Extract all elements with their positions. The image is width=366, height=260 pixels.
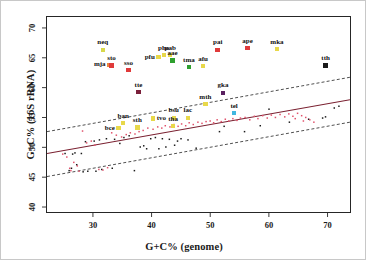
regression-line — [47, 100, 350, 154]
organism-marker-pho — [162, 53, 166, 57]
organism-marker-pfu — [156, 55, 160, 59]
organism-label-bsu: bsu — [168, 107, 179, 114]
organism-label-ban: ban — [118, 113, 129, 120]
organism-marker-bce — [116, 126, 120, 130]
organism-marker-neq — [101, 48, 105, 52]
organism-label-ape: ape — [242, 38, 253, 45]
organism-marker-pai — [215, 48, 219, 52]
organism-label-pfu: pfu — [145, 54, 155, 61]
organism-marker-tma — [187, 65, 191, 69]
organism-marker-tte — [136, 90, 140, 94]
organism-marker-sto — [109, 63, 113, 67]
y-tick-label: 45 — [27, 169, 37, 185]
organism-marker-lac — [186, 116, 190, 120]
y-tick-label: 65 — [27, 50, 37, 66]
organism-label-tel: tel — [230, 103, 237, 110]
organism-label-afu: afu — [198, 56, 208, 63]
organism-label-gka: gka — [218, 82, 229, 89]
organism-label-lac: lac — [183, 107, 192, 114]
organism-marker-gka — [221, 91, 225, 95]
y-tick-label: 40 — [27, 199, 37, 215]
organism-label-aae: aae — [167, 50, 177, 57]
x-axis-label: G+C% (genome) — [1, 241, 366, 252]
organism-label-tha: tha — [168, 116, 178, 123]
plot-canvas — [47, 17, 350, 212]
organism-marker-afu — [201, 64, 205, 68]
plot-area: neqmjastossottepfuphopabaaetmaafupaiapem… — [46, 16, 351, 213]
organism-label-tth: tth — [321, 55, 330, 62]
organism-label-pai: pai — [213, 39, 222, 46]
organism-marker-ape — [245, 46, 249, 50]
organism-label-bce: bce — [105, 125, 115, 132]
organism-marker-ban — [121, 121, 125, 125]
organism-label-sto: sto — [107, 55, 116, 62]
x-tick-label: 60 — [259, 220, 279, 230]
organism-label-neq: neq — [97, 39, 108, 46]
organism-marker-tha — [171, 124, 175, 128]
organism-label-mth: mth — [199, 94, 211, 101]
organism-label-tte: tte — [135, 82, 143, 89]
y-tick-label: 60 — [27, 80, 37, 96]
organism-marker-aae — [170, 58, 174, 62]
y-tick-label: 55 — [27, 109, 37, 125]
organism-label-sso: sso — [124, 60, 133, 67]
scatter-points — [62, 105, 340, 172]
organism-label-mka: mka — [270, 39, 283, 46]
y-tick-label: 70 — [27, 20, 37, 36]
organism-label-sth: sth — [133, 117, 142, 124]
organism-marker-tel — [232, 111, 236, 115]
organism-marker-mka — [275, 47, 279, 51]
x-tick-label: 70 — [318, 220, 338, 230]
organism-label-mja: mja — [94, 61, 106, 68]
y-tick-label: 50 — [27, 139, 37, 155]
organism-marker-mth — [203, 102, 207, 106]
organism-marker-sso — [126, 68, 130, 72]
organism-marker-sth — [135, 125, 139, 129]
figure-container: G+C% (16S rRNA) G+C% (genome) 4045505560… — [0, 0, 366, 260]
x-tick-label: 40 — [142, 220, 162, 230]
x-tick-label: 30 — [83, 220, 103, 230]
x-tick-label: 50 — [200, 220, 220, 230]
organism-marker-tvo — [151, 116, 155, 120]
organism-label-tma: tma — [183, 57, 195, 64]
organism-marker-tth — [323, 63, 327, 67]
organism-label-tvo: tvo — [157, 115, 166, 122]
